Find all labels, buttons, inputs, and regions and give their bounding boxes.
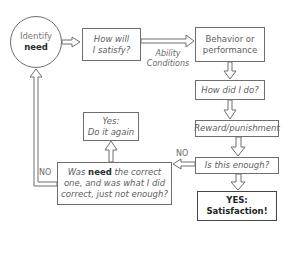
node-is-this-enough: Is this enough? bbox=[195, 157, 279, 174]
ability-label: Ability bbox=[144, 49, 192, 59]
node-identify-need: Identify need bbox=[10, 16, 62, 68]
edge-label-no-right: NO bbox=[176, 149, 188, 159]
node-how-will-i-satisfy: How will I satisfy? bbox=[82, 28, 141, 61]
was-need-bold: need bbox=[88, 167, 112, 177]
identify-label: Identify bbox=[20, 31, 52, 42]
satisfy-line1: How will bbox=[94, 34, 129, 45]
was-need-line2: one, and was what I did bbox=[64, 178, 165, 189]
behavior-line2: performance bbox=[203, 45, 257, 56]
behavior-line1: Behavior or bbox=[205, 34, 254, 45]
arrow-wasneed-to-doagain bbox=[105, 141, 117, 162]
arrow-enough-to-satisfaction bbox=[231, 174, 245, 190]
arrow-enough-to-wasneed bbox=[173, 159, 195, 169]
arrow-howdid-to-reward bbox=[224, 100, 236, 119]
arrow-identify-to-satisfy bbox=[62, 37, 80, 47]
identify-need-label: need bbox=[24, 42, 48, 53]
satisfy-line2: I satisfy? bbox=[93, 45, 131, 56]
reward-label: Reward/punishment bbox=[194, 123, 280, 134]
satisfaction-line1: YES: bbox=[226, 195, 247, 206]
node-satisfaction: YES: Satisfaction! bbox=[197, 191, 277, 221]
arrow-behavior-to-howdid bbox=[224, 62, 236, 79]
conditions-label: Conditions bbox=[144, 59, 192, 69]
how-did-label: How did I do? bbox=[201, 85, 258, 96]
edge-label-ability-conditions: Ability Conditions bbox=[144, 49, 192, 69]
do-again-line2: Do it again bbox=[88, 127, 134, 138]
do-again-line1: Yes: bbox=[103, 116, 120, 127]
enough-label: Is this enough? bbox=[205, 160, 269, 171]
edge-label-no-left: NO bbox=[39, 168, 51, 178]
arrow-satisfy-to-behavior bbox=[141, 35, 194, 47]
node-do-it-again: Yes: Do it again bbox=[83, 112, 139, 141]
was-need-line1: Was need the correct bbox=[68, 167, 161, 178]
node-how-did-i-do: How did I do? bbox=[195, 80, 265, 100]
node-reward-punishment: Reward/punishment bbox=[195, 120, 279, 137]
node-behavior-performance: Behavior or performance bbox=[195, 27, 265, 62]
was-need-line3: correct, just not enough? bbox=[61, 189, 168, 200]
arrow-reward-to-enough bbox=[231, 137, 245, 156]
satisfaction-line2: Satisfaction! bbox=[206, 206, 267, 217]
was-need-post: the correct bbox=[112, 167, 161, 177]
node-was-need-correct: Was need the correct one, and was what I… bbox=[57, 162, 172, 205]
was-need-pre: Was bbox=[68, 167, 88, 177]
